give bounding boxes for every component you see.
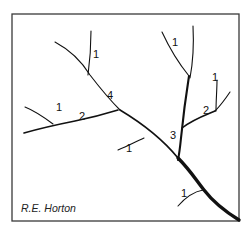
tributary-top-right-a [190, 26, 193, 78]
order-label: 1 [126, 142, 132, 154]
tributary-left-1 [25, 107, 53, 124]
main-channel-lower [178, 158, 239, 220]
tributary-right-1b [215, 92, 230, 111]
tributary-top-left [88, 31, 91, 75]
tributary-right-1a [216, 80, 217, 111]
order-label: 2 [203, 104, 209, 116]
credit-label: R.E. Horton [21, 202, 76, 214]
order-label: 1 [56, 101, 62, 113]
order-label: 2 [79, 110, 85, 122]
order-label: 1 [212, 71, 218, 83]
tributary-right-2 [182, 111, 215, 128]
trunk-order-3 [178, 76, 189, 160]
order-label: 1 [172, 36, 178, 48]
horton-stream-order-diagram: 1 4 1 2 1 1 2 3 1 1 R.E. Horton [0, 0, 248, 232]
order-label: 1 [93, 48, 99, 60]
order-label: 1 [181, 187, 187, 199]
order-label: 3 [170, 129, 176, 141]
order-label: 4 [107, 89, 113, 101]
